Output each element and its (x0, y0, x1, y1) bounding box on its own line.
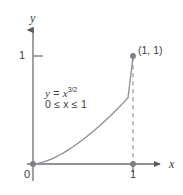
equation-exponent: 3/2 (68, 86, 77, 93)
equation-equals-sign: = (50, 87, 63, 99)
plot-canvas (0, 0, 183, 195)
equation-annotation: y = x3/2 (45, 86, 77, 99)
x-axis-label: x (169, 158, 174, 170)
domain-annotation: 0 ≤ x ≤ 1 (45, 99, 87, 110)
x-tick-label-1: 1 (130, 169, 136, 180)
endpoint-coordinate-label: (1, 1) (138, 45, 163, 56)
function-curve (33, 57, 133, 164)
y-tick-label-1: 1 (19, 50, 25, 61)
origin-label: 0 (24, 169, 30, 180)
y-axis-label: y (30, 12, 35, 24)
origin-point-marker (30, 161, 36, 167)
endpoint-marker (130, 53, 136, 59)
x-axis-point-marker (130, 161, 136, 167)
function-graph-figure: y x 1 0 1 (1, 1) y = x3/2 0 ≤ x ≤ 1 (0, 0, 183, 195)
